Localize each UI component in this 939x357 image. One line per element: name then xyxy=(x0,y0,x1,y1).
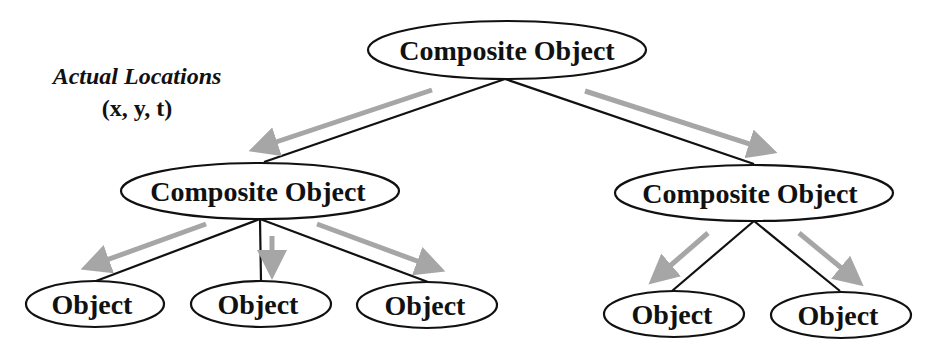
node-left-object-1: Object xyxy=(26,281,164,327)
caption-coords: (x, y, t) xyxy=(102,95,173,121)
node-left-object-3: Object xyxy=(357,282,497,328)
node-right-object-1-label: Object xyxy=(632,299,714,330)
node-left-object-1-label: Object xyxy=(52,289,134,320)
node-right-object-2: Object xyxy=(771,292,911,338)
node-root-label: Composite Object xyxy=(399,35,615,66)
node-right-composite: Composite Object xyxy=(615,165,893,221)
node-right-composite-label: Composite Object xyxy=(642,178,858,209)
hierarchy-diagram: Actual Locations (x, y, t) Composite Obj… xyxy=(0,0,939,357)
edge-root-right xyxy=(505,79,754,164)
node-left-composite: Composite Object xyxy=(121,163,399,219)
diagram-svg: Actual Locations (x, y, t) Composite Obj… xyxy=(0,0,939,357)
node-left-object-2-label: Object xyxy=(218,289,300,320)
node-left-object-2: Object xyxy=(191,281,331,327)
edge-root-left xyxy=(264,79,505,162)
edge-left-obj2 xyxy=(260,219,261,281)
caption-title: Actual Locations xyxy=(51,63,222,89)
edge-left-obj1 xyxy=(96,219,260,281)
arrow-root-right xyxy=(585,91,768,150)
arrow-right-obj1 xyxy=(656,233,708,278)
arrow-root-left xyxy=(258,90,432,148)
node-left-composite-label: Composite Object xyxy=(150,176,366,207)
arrow-right-obj2 xyxy=(799,233,856,280)
node-left-object-3-label: Object xyxy=(385,290,467,321)
node-right-object-2-label: Object xyxy=(798,300,880,331)
edge-left-obj3 xyxy=(260,219,428,282)
node-right-object-1: Object xyxy=(604,291,744,337)
node-root: Composite Object xyxy=(368,21,646,79)
